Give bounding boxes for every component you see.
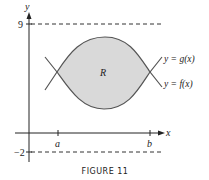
x-tick-label-a: a <box>55 138 60 149</box>
curve-g-label: y = g(x) <box>163 54 195 65</box>
y-axis-arrow-icon <box>27 12 32 19</box>
figure-caption: FIGURE 11 <box>82 167 129 176</box>
x-axis-arrow-icon <box>158 131 165 136</box>
y-tick-label-9: 9 <box>18 19 23 30</box>
region-label: R <box>99 67 106 78</box>
x-tick-label-b: b <box>147 138 152 149</box>
y-axis-label: y <box>24 1 30 12</box>
region-between-curves-diagram: y x 9 −2 a b R y = g(x) y = f(x) FIGURE … <box>0 0 209 180</box>
x-axis-label: x <box>165 127 171 138</box>
curve-f-label: y = f(x) <box>163 79 193 90</box>
y-tick-label-neg2: −2 <box>14 147 25 158</box>
